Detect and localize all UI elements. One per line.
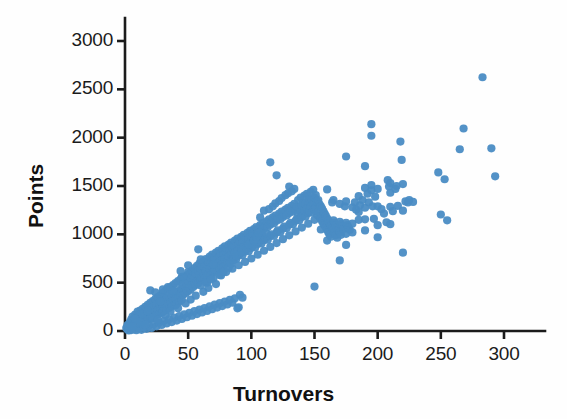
data-point <box>491 172 499 180</box>
data-point <box>342 152 350 160</box>
data-point <box>323 185 331 193</box>
data-point <box>204 284 212 292</box>
data-point <box>141 321 149 329</box>
data-point <box>212 280 220 288</box>
y-tick-label: 3000 <box>30 29 113 51</box>
data-point <box>399 207 407 215</box>
data-point <box>144 307 152 315</box>
x-axis-title: Turnovers <box>0 382 567 406</box>
y-tick-label: 2500 <box>30 77 113 99</box>
data-point <box>437 210 445 218</box>
data-point <box>184 261 192 269</box>
y-tick-label: 2000 <box>30 126 113 148</box>
data-point <box>399 180 407 188</box>
data-point <box>197 255 205 263</box>
data-point <box>386 220 394 228</box>
data-point <box>361 226 369 234</box>
data-point <box>310 282 318 290</box>
data-point <box>459 124 467 132</box>
data-point <box>336 256 344 264</box>
scatter-plot-figure: 050010001500200025003000 050100150200250… <box>0 0 567 419</box>
data-point <box>128 323 136 331</box>
data-point <box>380 209 388 217</box>
data-points <box>122 73 499 334</box>
data-point <box>367 120 375 128</box>
data-point <box>443 216 451 224</box>
data-point <box>233 304 241 312</box>
data-point <box>176 267 184 275</box>
y-axis-title: Points <box>24 164 48 228</box>
y-tick-label: 500 <box>30 271 113 293</box>
data-point <box>371 193 379 201</box>
data-point <box>238 294 246 302</box>
data-point <box>361 215 369 223</box>
data-point <box>478 73 486 81</box>
data-point <box>174 304 182 312</box>
data-point <box>194 245 202 253</box>
data-point <box>409 198 417 206</box>
y-tick-label: 0 <box>30 319 113 341</box>
data-point <box>151 288 159 296</box>
data-point <box>166 307 174 315</box>
data-point <box>266 158 274 166</box>
data-point <box>398 156 406 164</box>
data-point <box>487 144 495 152</box>
data-point <box>342 197 350 205</box>
data-point <box>441 175 449 183</box>
data-point <box>374 233 382 241</box>
data-point <box>434 168 442 176</box>
data-point <box>156 297 164 305</box>
data-point <box>367 132 375 140</box>
x-tick-label: 300 <box>464 343 544 365</box>
data-point <box>192 292 200 300</box>
data-point <box>209 260 217 268</box>
data-point <box>342 241 350 249</box>
data-point <box>399 249 407 257</box>
data-point <box>361 162 369 170</box>
data-point <box>396 137 404 145</box>
data-point <box>290 185 298 193</box>
data-point <box>374 185 382 193</box>
data-point <box>154 316 162 324</box>
data-point <box>456 145 464 153</box>
data-point <box>255 229 263 237</box>
data-point <box>348 228 356 236</box>
data-point <box>273 171 281 179</box>
data-point <box>374 221 382 229</box>
data-point <box>164 283 172 291</box>
